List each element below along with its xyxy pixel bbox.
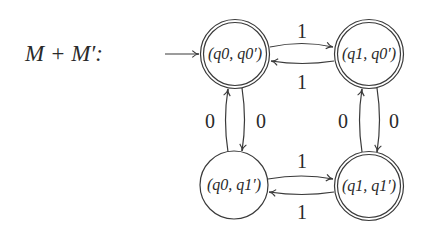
edge-q1q0-to-q1q1: 0 (377, 88, 399, 152)
state-label: (q1, q0′) (342, 45, 396, 63)
state-label: (q0, q1′) (207, 176, 261, 194)
edge-q0q1-to-q0q0: 0 (205, 89, 228, 152)
edge-symbol: 0 (256, 110, 266, 132)
edge-symbol: 0 (338, 110, 348, 132)
edge-symbol: 0 (389, 110, 399, 132)
edge-symbol: 1 (297, 150, 307, 172)
state-label: (q1, q1′) (342, 177, 396, 195)
state-q1-q1prime: (q1, q1′) (335, 152, 404, 221)
edge-q1q0-to-q0q0: 1 (271, 61, 334, 93)
edge-symbol: 0 (205, 110, 215, 132)
state-q0-q0prime: (q0, q0′) (201, 20, 270, 89)
edge-symbol: 1 (297, 201, 307, 223)
automaton-diagram: M + M′: (q0, q0′) (q1, q0′) (q0, q1′) (q… (0, 0, 422, 234)
state-q1-q0prime: (q1, q0′) (335, 20, 404, 89)
state-label: (q0, q0′) (208, 45, 262, 63)
state-q0-q1prime: (q0, q1′) (200, 151, 268, 219)
edge-symbol: 1 (297, 20, 307, 42)
edge-q1q1-to-q0q1: 1 (269, 192, 334, 223)
edge-q0q1-to-q1q1: 1 (268, 150, 333, 179)
automaton-title: M + M′: (24, 41, 103, 66)
edge-symbol: 1 (297, 71, 307, 93)
edge-q0q0-to-q0q1: 0 (242, 88, 266, 151)
edge-q1q1-to-q1q0: 0 (338, 89, 362, 152)
edge-q0q0-to-q1q0: 1 (270, 20, 333, 47)
